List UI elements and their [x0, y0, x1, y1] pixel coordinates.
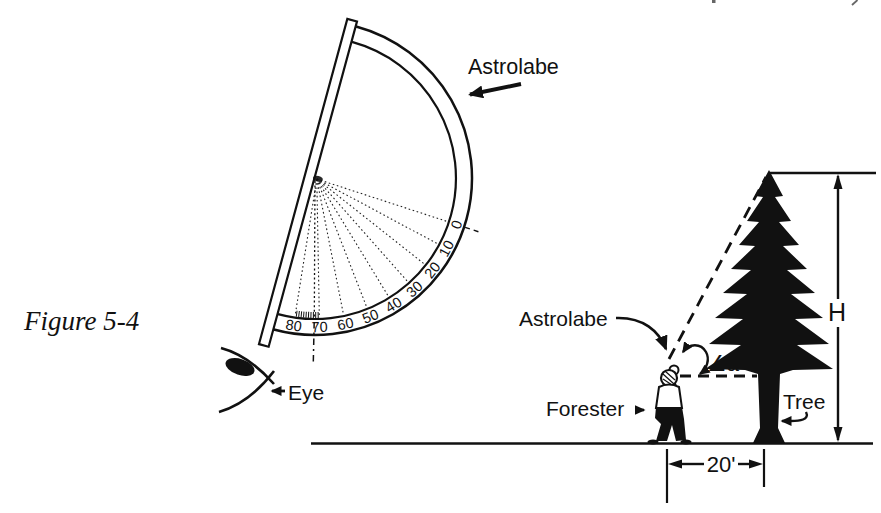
scan-artifact	[852, 0, 858, 5]
astrolabe-label-right: Astrolabe	[519, 307, 608, 330]
eye-label: Eye	[288, 381, 324, 404]
zero-line-extension	[465, 227, 481, 232]
eye-icon	[219, 348, 274, 412]
distance-label: 20'	[707, 452, 736, 477]
tree-pointer-curve	[782, 412, 807, 421]
scale-label-40: 40	[383, 294, 405, 316]
figure-5-4-diagram: 80 70 60 50 40 30 20 10 0 Astrolabe Eye	[0, 0, 881, 513]
forester-torso	[656, 385, 682, 409]
figure-caption: Figure 5-4	[23, 306, 139, 336]
scale-label-0: 0	[448, 218, 466, 231]
forester-foot	[681, 440, 692, 445]
plumb-line-upper	[314, 181, 315, 318]
astrolabe-pointer-curve	[616, 318, 666, 349]
forester-legs	[655, 407, 686, 441]
height-dim-arrow-down	[834, 427, 843, 442]
forester-foot	[648, 440, 659, 445]
scale-label-30: 30	[403, 278, 426, 301]
scale-label-20: 20	[421, 259, 444, 282]
scale-label-60: 60	[336, 314, 355, 333]
diagram-canvas: 80 70 60 50 40 30 20 10 0 Astrolabe Eye	[0, 0, 881, 513]
distance-arrow-right	[749, 460, 763, 469]
distance-arrow-left	[668, 460, 682, 469]
scale-label-50: 50	[360, 306, 381, 327]
tree-scene: ∠a Astrolabe Forester Tree	[311, 170, 876, 503]
distance-dimension: 20'	[667, 449, 764, 503]
forester-label: Forester	[546, 397, 624, 420]
scale-label-10: 10	[436, 238, 458, 260]
sighting-bar	[259, 19, 357, 347]
angle-arc-arrow	[683, 345, 708, 374]
astrolabe-label-left: Astrolabe	[468, 55, 559, 79]
plumb-line-lower	[313, 322, 314, 362]
scan-artifact	[712, 0, 716, 3]
scale-label-80: 80	[285, 317, 303, 335]
tree-label: Tree	[783, 390, 825, 413]
height-label: H	[828, 298, 846, 326]
angle-label: ∠a	[707, 351, 740, 376]
astrolabe-pointer-arrow	[470, 84, 521, 95]
height-dim-arrow-up	[834, 174, 843, 189]
